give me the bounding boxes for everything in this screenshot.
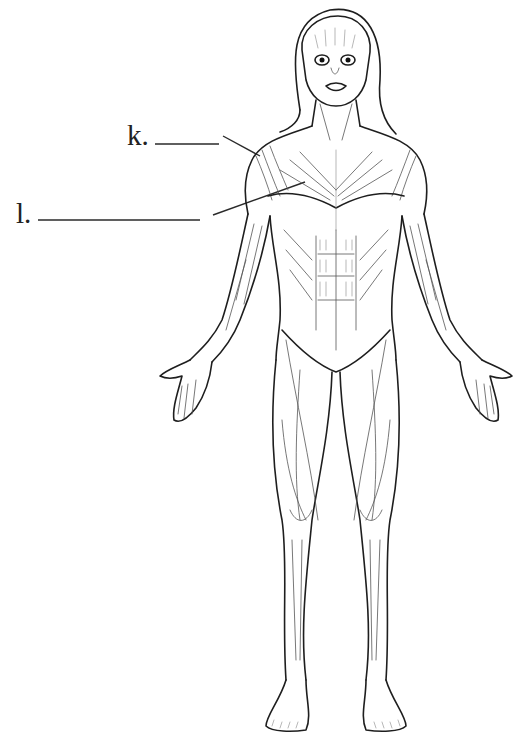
abdominal-muscles (284, 230, 388, 350)
right-leg (386, 360, 399, 680)
muscle-diagram: k. l. (0, 0, 513, 751)
hair-outline (295, 9, 396, 134)
label-l: l. (16, 199, 31, 228)
left-hand (160, 360, 212, 421)
right-foot (363, 680, 406, 731)
head-outline (302, 16, 370, 106)
label-k: k. (127, 121, 149, 150)
muscle-figure-illustration (0, 0, 513, 751)
label-k-leader (155, 136, 260, 156)
label-l-leader (38, 182, 305, 220)
deltoid-muscle (256, 146, 288, 200)
left-leg (273, 360, 286, 680)
left-foot (266, 680, 309, 731)
right-hand (460, 360, 512, 421)
